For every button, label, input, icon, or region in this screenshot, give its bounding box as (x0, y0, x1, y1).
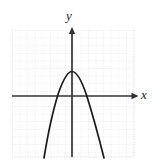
parabola-figure: y x (0, 0, 153, 165)
grid-area (12, 30, 134, 157)
x-axis-arrowhead (132, 93, 139, 99)
x-axis-label: x (141, 88, 147, 101)
graph-canvas (0, 0, 153, 165)
y-axis-label: y (66, 9, 72, 22)
